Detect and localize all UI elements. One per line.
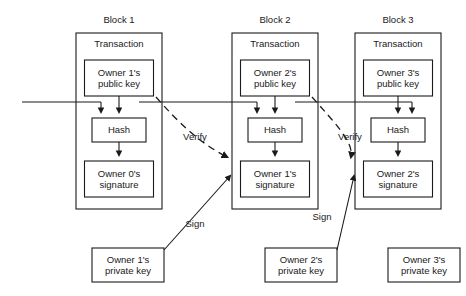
block2-private-key-box [265,248,337,282]
transaction-chain-diagram: Block 1 Transaction Owner 1's public key… [0,0,466,296]
verify-arrow-1 [156,97,227,157]
block1-public-key-box [85,60,154,96]
block2-public-key-box [241,60,310,96]
sign-arrow-2 [337,176,354,250]
block2-hash-box [248,118,302,142]
block3-transaction-box [355,33,441,209]
block1-signature-box [85,161,154,197]
block3-private-key-box [388,248,460,282]
block3-signature-box [364,161,433,197]
block2-signature-box [241,161,310,197]
sign-arrow-1 [164,176,230,250]
block3-public-key-box [364,60,433,96]
block1-private-key-box [92,248,164,282]
block2-transaction-box [232,33,318,209]
diagram-vector-layer [0,0,466,296]
block3-hash-box [371,118,425,142]
block1-hash-box [92,118,146,142]
block1-transaction-box [76,33,162,209]
